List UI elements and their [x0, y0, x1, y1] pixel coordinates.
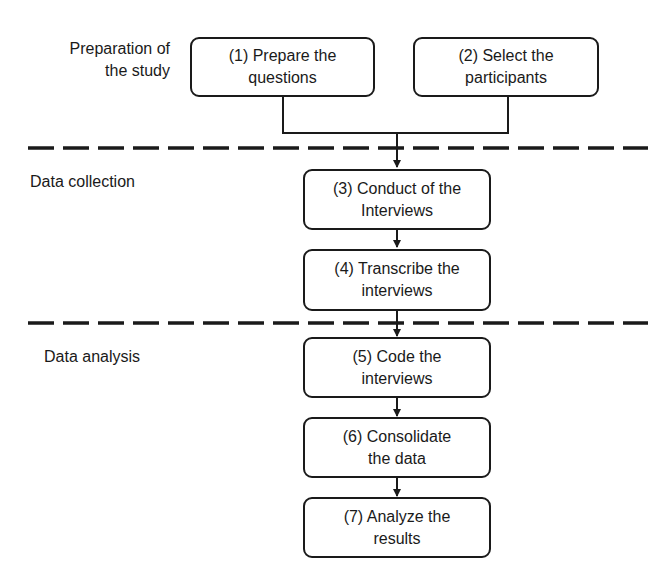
step-text: (6) Consolidate: [343, 426, 452, 448]
step-box-2-select-participants: (2) Select theparticipants: [413, 37, 599, 97]
step-text: (1) Prepare the: [229, 45, 337, 67]
stage-label-line: the study: [30, 60, 170, 82]
step-box-6-consolidate-data: (6) Consolidatethe data: [303, 417, 491, 478]
step-text: (4) Transcribe the: [334, 258, 459, 280]
step-text: results: [344, 528, 451, 550]
stage-label-line: Data collection: [30, 173, 135, 190]
step-box-1-prepare-questions: (1) Prepare thequestions: [190, 37, 375, 97]
step-box-3-conduct-interviews: (3) Conduct of theInterviews: [303, 169, 491, 230]
step-text: questions: [229, 67, 337, 89]
step-text: participants: [458, 67, 553, 89]
step-box-5-code-interviews: (5) Code theinterviews: [303, 337, 491, 398]
step-text: (5) Code the: [353, 346, 442, 368]
stage-label-line: Preparation of: [30, 38, 170, 60]
step-text: interviews: [334, 280, 459, 302]
step-text: Interviews: [333, 200, 461, 222]
step-box-7-analyze-results: (7) Analyze theresults: [303, 497, 491, 558]
step-text: interviews: [353, 368, 442, 390]
step-text: (7) Analyze the: [344, 506, 451, 528]
stage-label-preparation: Preparation of the study: [30, 38, 170, 82]
step-text: (2) Select the: [458, 45, 553, 67]
step-text: the data: [343, 448, 452, 470]
merge-connector: [283, 96, 508, 133]
stage-label-data-collection: Data collection: [30, 171, 135, 193]
step-box-4-transcribe-interviews: (4) Transcribe theinterviews: [303, 249, 491, 311]
step-text: (3) Conduct of the: [333, 178, 461, 200]
stage-label-line: Data analysis: [44, 348, 140, 365]
stage-label-data-analysis: Data analysis: [44, 346, 140, 368]
